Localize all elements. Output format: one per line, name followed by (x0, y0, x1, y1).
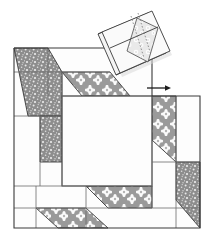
quilt-block-illustration (0, 0, 208, 242)
diagram-canvas (0, 0, 208, 242)
patch-left-mid-speckled (40, 116, 62, 162)
center-square (62, 96, 152, 186)
